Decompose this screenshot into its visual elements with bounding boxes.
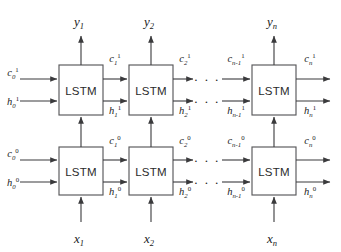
label-hn1-lower: hn-10 [227,185,245,198]
input-labels: x1 x2 xn [73,231,277,248]
label-cn-lower: cn0 [304,134,316,147]
lstm-upper-tn-label: LSTM [258,85,289,97]
label-y1: y1 [72,14,84,31]
lstm-upper-t1-label: LSTM [65,85,96,97]
ellipsis-upper-c: · · · [194,72,221,87]
label-cn1-lower: cn-10 [227,134,245,147]
label-h2-upper: h21 [179,104,191,117]
diagram-canvas: LSTM LSTM LSTM LSTM LSTM LSTM [0,0,341,252]
label-cn1-upper: cn-11 [227,52,244,65]
lstm-architecture-diagram: LSTM LSTM LSTM LSTM LSTM LSTM [0,0,341,252]
lstm-upper-t2-label: LSTM [135,85,166,97]
lstm-lower-t2-label: LSTM [135,166,166,178]
label-c0-upper: c01 [7,66,18,79]
upper-layer-group: LSTM LSTM LSTM [59,65,296,115]
lstm-lower-tn-label: LSTM [258,166,289,178]
label-h0-upper: h01 [7,95,19,108]
ellipsis-lower-h: · · · [194,175,221,190]
label-h0-lower: h00 [7,176,20,189]
label-hn-upper: hn1 [304,104,316,117]
label-y2: y2 [142,14,155,31]
label-cn-upper: cn1 [304,52,315,65]
label-hn1-upper: hn-11 [227,104,245,117]
label-x2: x2 [143,231,155,248]
label-c2-upper: c21 [179,52,190,65]
label-h1-lower: h10 [109,185,122,198]
label-h2-lower: h20 [179,185,192,198]
label-hn-lower: hn0 [304,185,317,198]
ellipsis-upper-h: · · · [194,94,221,109]
label-xn: xn [266,231,277,248]
label-x1: x1 [73,231,84,248]
label-c1-upper: c11 [109,52,120,65]
label-yn: yn [265,14,277,31]
label-c2-lower: c20 [179,134,191,147]
label-h1-upper: h11 [109,104,121,117]
label-c0-lower: c00 [7,147,19,160]
ellipsis-lower-c: · · · [194,153,221,168]
ellipsis-group: · · · · · · · · · · · · [194,72,221,190]
output-labels: y1 y2 yn [72,14,277,31]
lstm-lower-t1-label: LSTM [65,166,96,178]
label-c1-lower: c10 [109,134,121,147]
lower-layer-group: LSTM LSTM LSTM [59,147,296,195]
